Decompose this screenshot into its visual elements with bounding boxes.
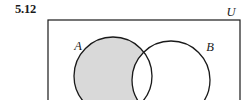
venn-diagram-figure: 5.12 A B U <box>0 0 246 100</box>
venn-diagram-canvas: A B U <box>0 0 246 100</box>
universal-set-label: U <box>226 5 236 19</box>
set-a-label: A <box>73 39 82 53</box>
set-b-label: B <box>206 40 214 54</box>
